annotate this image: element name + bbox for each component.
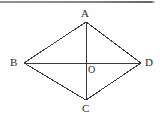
vertex-label-c: C (82, 103, 89, 114)
vertex-label-b: B (10, 57, 17, 68)
vertex-label-a: A (81, 8, 89, 19)
segment-bc (24, 63, 86, 100)
segment-ab (24, 22, 86, 63)
vertex-label-d: D (145, 57, 153, 68)
segment-ad (86, 22, 141, 63)
intersection-label-o: O (88, 64, 95, 75)
geometry-figure: A B D C O (0, 0, 163, 121)
